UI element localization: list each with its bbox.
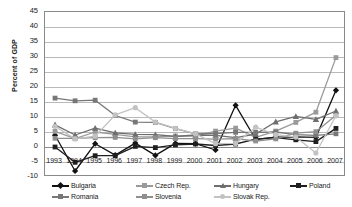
chart-container: Percent of GDP 454035302520151050-5-10 1… — [0, 0, 352, 207]
series-lines — [45, 12, 346, 177]
legend-label: Slovenia — [155, 193, 181, 200]
x-axis-tick: 2000 — [184, 157, 206, 164]
x-axis-tick: 2004 — [264, 157, 286, 164]
legend-swatch-icon — [290, 182, 307, 190]
x-axis-tick: 1993 — [43, 157, 65, 164]
plot-area — [44, 11, 345, 176]
y-axis-tick: 20 — [0, 82, 38, 90]
legend-item-czech-rep[interactable]: Czech Rep. — [136, 180, 191, 191]
legend-swatch-icon — [214, 182, 231, 190]
y-axis-tick: 45 — [0, 7, 38, 15]
y-axis-tick: 0 — [0, 142, 38, 150]
y-axis-tick: -10 — [0, 172, 38, 180]
legend-swatch-icon — [52, 193, 69, 201]
legend-row-2: RomaniaSloveniaSlovak Rep. — [44, 191, 352, 202]
y-axis-tick: 10 — [0, 112, 38, 120]
legend-swatch-icon — [214, 193, 231, 201]
legend-item-slovenia[interactable]: Slovenia — [136, 191, 181, 202]
y-axis-tick: 25 — [0, 67, 38, 75]
legend-item-romania[interactable]: Romania — [52, 191, 98, 202]
legend-label: Hungary — [233, 182, 259, 189]
x-axis-tick: 2003 — [244, 157, 266, 164]
x-axis-tick: 1999 — [163, 157, 185, 164]
x-axis-tick: 1998 — [143, 157, 165, 164]
x-axis-tick: 2001 — [204, 157, 226, 164]
legend-label: Slovak Rep. — [233, 193, 270, 200]
y-axis-tick: -5 — [0, 157, 38, 165]
y-axis-tick: 30 — [0, 52, 38, 60]
legend-row-1: BulgariaCzech Rep.HungaryPoland — [44, 180, 352, 191]
x-axis-tick: 1995 — [83, 157, 105, 164]
legend-label: Bulgaria — [71, 182, 96, 189]
y-axis-tick: 15 — [0, 97, 38, 105]
y-axis-tick: 40 — [0, 22, 38, 30]
legend-swatch-icon — [136, 182, 153, 190]
legend-swatch-icon — [136, 193, 153, 201]
x-axis-tick: 2007 — [324, 157, 346, 164]
x-axis-tick: 1994 — [63, 157, 85, 164]
x-axis-tick: 2006 — [304, 157, 326, 164]
legend-label: Poland — [309, 182, 330, 189]
y-axis-tick-labels: 454035302520151050-5-10 — [0, 0, 44, 207]
legend-item-hungary[interactable]: Hungary — [214, 180, 259, 191]
y-axis-tick: 35 — [0, 37, 38, 45]
x-axis-tick: 1997 — [123, 157, 145, 164]
chart-legend: BulgariaCzech Rep.HungaryPoland RomaniaS… — [44, 180, 352, 206]
x-axis-tick: 2005 — [284, 157, 306, 164]
x-axis-tick: 2002 — [224, 157, 246, 164]
x-axis-tick: 1996 — [103, 157, 125, 164]
legend-item-poland[interactable]: Poland — [290, 180, 330, 191]
legend-item-slovak-rep[interactable]: Slovak Rep. — [214, 191, 270, 202]
legend-label: Czech Rep. — [155, 182, 191, 189]
legend-swatch-icon — [52, 182, 69, 190]
y-axis-tick: 5 — [0, 127, 38, 135]
legend-label: Romania — [71, 193, 98, 200]
legend-item-bulgaria[interactable]: Bulgaria — [52, 180, 96, 191]
